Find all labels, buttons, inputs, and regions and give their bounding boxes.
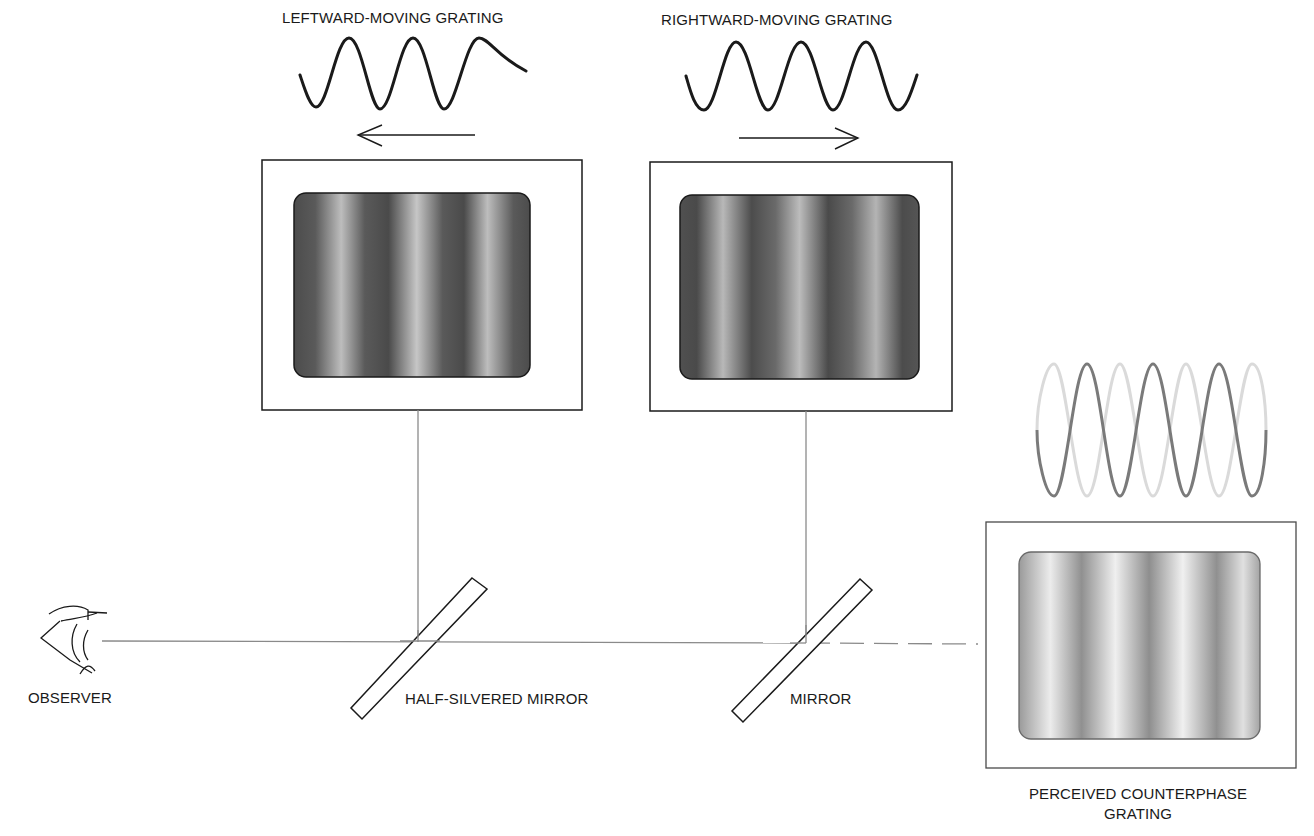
right-display-monitor bbox=[650, 162, 952, 411]
left-arrow-icon bbox=[358, 125, 475, 146]
rightward-grating-label: RIGHTWARD-MOVING GRATING bbox=[661, 11, 893, 28]
left-display-screen bbox=[294, 193, 530, 377]
perceived-label-line2: GRATING bbox=[1000, 804, 1276, 824]
optical-diagram bbox=[0, 0, 1314, 836]
perceived-label-line1: PERCEIVED COUNTERPHASE bbox=[1000, 784, 1276, 804]
eye-icon bbox=[41, 606, 107, 674]
right-arrow-icon bbox=[739, 128, 858, 149]
counterphase-waveform-dark bbox=[1037, 364, 1266, 496]
rightward-waveform bbox=[686, 42, 917, 110]
left-display-monitor bbox=[262, 160, 582, 410]
right-display-screen bbox=[680, 195, 919, 379]
mirror-label: MIRROR bbox=[790, 690, 851, 707]
perceived-grating-label: PERCEIVED COUNTERPHASE GRATING bbox=[1000, 784, 1276, 824]
perceived-display-monitor bbox=[986, 522, 1296, 768]
leftward-waveform bbox=[300, 38, 526, 109]
perceived-display-screen bbox=[1019, 552, 1260, 739]
observer-label: OBSERVER bbox=[28, 689, 112, 706]
leftward-grating-label: LEFTWARD-MOVING GRATING bbox=[282, 9, 503, 26]
half-silvered-mirror-label: HALF-SILVERED MIRROR bbox=[405, 690, 588, 707]
